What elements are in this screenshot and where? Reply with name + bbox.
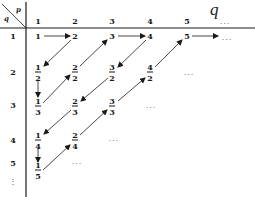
arrow-3-2-to-2-3: [81, 78, 108, 101]
column-header-ellipsis: ...: [220, 17, 231, 26]
arrow-1-5-to-2-4: [43, 145, 70, 170]
cell-4-2: 24: [72, 131, 78, 150]
cell-4-1: 14: [35, 131, 41, 150]
row-header-2: 2: [10, 68, 16, 76]
axis-label-q: q: [210, 0, 219, 20]
corner-label-p: p: [16, 5, 21, 14]
cell-1-4: 4: [147, 32, 153, 40]
row-1-ellipsis: ...: [222, 33, 233, 42]
column-header-1: 1: [35, 17, 41, 25]
cell-2-4: 42: [147, 63, 153, 82]
arrow-2-3-to-1-4: [44, 110, 71, 134]
arrow-4-to-3-2: [118, 40, 146, 67]
row-4-ellipsis: ...: [109, 134, 120, 143]
column-header-2: 2: [72, 17, 78, 25]
cell-1-2: 2: [72, 32, 78, 40]
row-5-ellipsis: ...: [72, 157, 83, 166]
row-header-4: 4: [10, 136, 16, 144]
cell-1-1: 1: [35, 32, 41, 40]
arrow-2-to-1-2: [44, 40, 71, 66]
cell-2-2: 22: [72, 63, 78, 82]
cell-2-3: 32: [109, 63, 115, 82]
cell-1-3: 3: [109, 32, 115, 40]
row-2-ellipsis: ...: [184, 68, 195, 77]
cell-3-1: 13: [35, 97, 41, 116]
cell-3-2: 23: [72, 97, 78, 116]
cell-5-1: 15: [35, 161, 41, 180]
cell-1-5: 5: [184, 32, 190, 40]
arrow-1-3-to-2-2: [43, 75, 70, 103]
column-header-4: 4: [147, 17, 153, 25]
row-header-continuation: ⋮: [9, 180, 17, 184]
column-header-5: 5: [184, 17, 190, 25]
row-header-3: 3: [10, 101, 16, 109]
arrow-2-2-to-3: [80, 40, 107, 66]
arrow-4-2-to-5: [155, 40, 182, 67]
cell-3-3: 33: [109, 97, 115, 116]
row-header-5: 5: [10, 159, 16, 167]
corner-label-q: q: [4, 14, 9, 23]
cantor-enumeration-diagram: q p q 1 2 3 4 5 ... 1 2 3 4 5 ⋮ 1 2 3 4 …: [0, 0, 255, 197]
row-header-1: 1: [10, 32, 16, 40]
arrow-3-3-to-4-2: [118, 78, 145, 101]
row-3-ellipsis: ...: [146, 101, 157, 110]
cell-2-1: 12: [35, 63, 41, 82]
column-header-3: 3: [109, 17, 115, 25]
arrow-2-4-to-3-3: [80, 110, 107, 135]
